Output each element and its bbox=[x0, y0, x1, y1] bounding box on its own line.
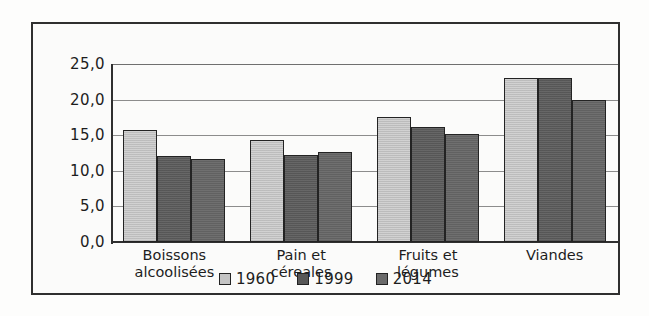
chart-frame: 25,0 20,0 15,0 10,0 5,0 0,0 bbox=[31, 22, 620, 295]
y-axis-labels: 25,0 20,0 15,0 10,0 5,0 0,0 bbox=[57, 64, 105, 242]
legend-item-1999: 1999 bbox=[297, 270, 353, 288]
bar-2014-pain-et-cereales bbox=[318, 152, 352, 242]
legend-swatch-icon-1999 bbox=[297, 273, 309, 285]
bar-1960-viandes bbox=[504, 78, 538, 242]
legend-label-2014: 2014 bbox=[393, 270, 432, 288]
y-tick-label-0: 0,0 bbox=[59, 233, 105, 251]
legend-swatch-icon-2014 bbox=[376, 273, 388, 285]
bar-2014-fruits-et-legumes bbox=[445, 134, 479, 242]
bar-2014-viandes bbox=[572, 100, 606, 242]
bar-2014-boissons-alcoolisees bbox=[191, 159, 225, 242]
chart-page: 25,0 20,0 15,0 10,0 5,0 0,0 bbox=[0, 0, 649, 316]
bar-1999-fruits-et-legumes bbox=[411, 127, 445, 242]
y-tick-label-15: 15,0 bbox=[59, 126, 105, 144]
bar-group-viandes bbox=[496, 64, 614, 242]
chart-legend: 1960 1999 2014 bbox=[31, 270, 620, 288]
y-tick-label-20: 20,0 bbox=[59, 91, 105, 109]
y-tick-label-25: 25,0 bbox=[59, 55, 105, 73]
bar-group-fruits-et-legumes bbox=[369, 64, 487, 242]
legend-label-1960: 1960 bbox=[236, 270, 275, 288]
bar-1960-fruits-et-legumes bbox=[377, 117, 411, 242]
y-tick-label-10: 10,0 bbox=[59, 162, 105, 180]
bar-group-pain-et-cereales bbox=[242, 64, 360, 242]
bar-groups bbox=[111, 64, 618, 242]
bar-1999-pain-et-cereales bbox=[284, 155, 318, 242]
x-label-line-1: Viandes bbox=[491, 247, 618, 264]
legend-label-1999: 1999 bbox=[314, 270, 353, 288]
x-label-line-1: Pain et bbox=[238, 247, 365, 264]
bar-group-boissons-alcoolisees bbox=[115, 64, 233, 242]
legend-item-2014: 2014 bbox=[376, 270, 432, 288]
x-label-line-1: Boissons bbox=[111, 247, 238, 264]
legend-swatch-icon-1960 bbox=[219, 273, 231, 285]
bar-1960-boissons-alcoolisees bbox=[123, 130, 157, 242]
bar-1960-pain-et-cereales bbox=[250, 140, 284, 242]
x-label-line-1: Fruits et bbox=[365, 247, 492, 264]
legend-item-1960: 1960 bbox=[219, 270, 275, 288]
bar-1999-boissons-alcoolisees bbox=[157, 156, 191, 242]
y-tick-label-5: 5,0 bbox=[59, 197, 105, 215]
bar-1999-viandes bbox=[538, 78, 572, 242]
